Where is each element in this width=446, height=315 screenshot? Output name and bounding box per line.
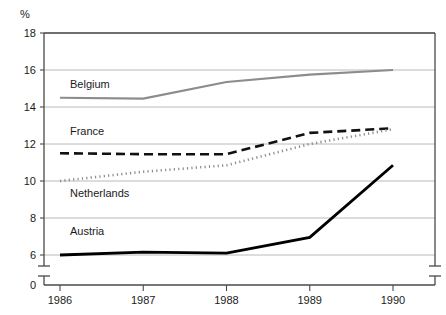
series-label-austria: Austria xyxy=(70,225,105,237)
y-tick-label: 18 xyxy=(24,27,36,39)
series-lines xyxy=(60,70,393,255)
x-axis-tick-labels: 19861987198819891990 xyxy=(48,294,405,306)
series-label-france: France xyxy=(70,125,104,137)
y-tick-label: 16 xyxy=(24,64,36,76)
series-line-austria xyxy=(60,165,393,255)
series-label-belgium: Belgium xyxy=(70,78,110,90)
y-axis-tick-labels: 1816141210860 xyxy=(24,27,36,291)
y-tick-label: 10 xyxy=(24,175,36,187)
y-tick-label: 0 xyxy=(30,279,36,291)
x-tick-label: 1988 xyxy=(214,294,238,306)
y-tick-label: 14 xyxy=(24,101,36,113)
chart-canvas: 1816141210860 19861987198819891990 Belgi… xyxy=(0,0,446,315)
x-tick-label: 1986 xyxy=(48,294,72,306)
x-tick-label: 1989 xyxy=(298,294,322,306)
y-tick-label: 8 xyxy=(30,212,36,224)
y-tick-label: 12 xyxy=(24,138,36,150)
x-tick-label: 1990 xyxy=(381,294,405,306)
line-chart: 1816141210860 19861987198819891990 Belgi… xyxy=(0,0,446,315)
series-inline-labels: BelgiumFranceNetherlandsAustria xyxy=(70,78,130,237)
series-label-netherlands: Netherlands xyxy=(70,187,130,199)
x-tick-label: 1987 xyxy=(131,294,155,306)
gridlines xyxy=(44,33,435,255)
y-tick-label: 6 xyxy=(30,249,36,261)
series-line-france xyxy=(60,128,393,154)
series-line-belgium xyxy=(60,70,393,99)
y-axis-unit-label: % xyxy=(20,8,30,20)
